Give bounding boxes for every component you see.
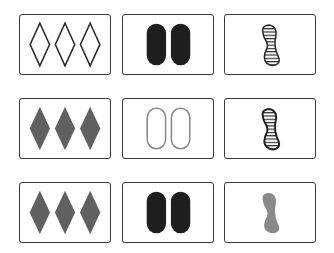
diamond-icon — [20, 183, 110, 242]
card-r2-c3[interactable]: one striped squiggle — [224, 98, 316, 159]
squiggle-icon — [225, 99, 315, 158]
card-r3-c3[interactable]: one solid gray squiggle — [224, 182, 316, 243]
card-r2-c1[interactable]: three solid gray diamonds — [19, 98, 111, 159]
card-r1-c3[interactable]: one striped squiggle — [224, 14, 316, 75]
card-r3-c1[interactable]: three solid gray diamonds — [19, 182, 111, 243]
diamond-icon — [20, 99, 110, 158]
oval-icon — [123, 99, 213, 158]
card-r1-c1[interactable]: three outlined diamonds — [19, 14, 111, 75]
squiggle-icon — [225, 183, 315, 242]
oval-icon — [123, 15, 213, 74]
card-r1-c2[interactable]: two solid black ovals — [122, 14, 214, 75]
card-r2-c2[interactable]: two outlined light gray ovals — [122, 98, 214, 159]
oval-icon — [123, 183, 213, 242]
squiggle-icon — [225, 15, 315, 74]
card-r3-c2[interactable]: two solid black ovals — [122, 182, 214, 243]
diamond-icon — [20, 15, 110, 74]
